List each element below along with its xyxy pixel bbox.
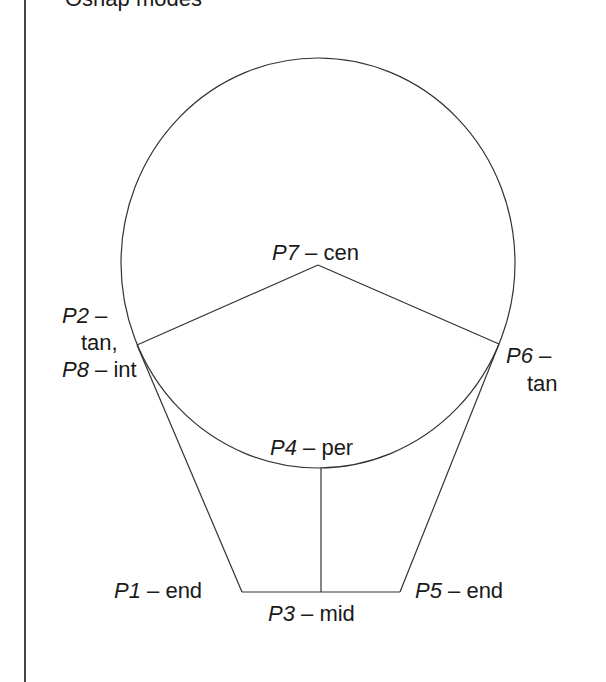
label-p7-sep: – xyxy=(299,240,323,265)
label-p6-sep: – xyxy=(533,343,551,368)
label-p3-mode: mid xyxy=(319,601,354,626)
label-p2: P2 – xyxy=(62,303,107,329)
label-p7-id: P7 xyxy=(272,240,299,265)
label-p4-mode: per xyxy=(321,435,353,460)
label-p2-mode: tan, xyxy=(81,330,118,356)
label-p8: P8 – int xyxy=(62,357,137,383)
label-p5: P5 – end xyxy=(415,578,503,604)
label-p2-id: P2 xyxy=(62,303,89,328)
label-p6-mode: tan xyxy=(527,371,558,397)
label-p1-sep: – xyxy=(141,578,165,603)
label-p8-sep: – xyxy=(89,357,113,382)
label-p3-id: P3 xyxy=(268,601,295,626)
label-p4-id: P4 xyxy=(270,435,297,460)
label-p3-sep: – xyxy=(295,601,319,626)
label-p2-sep: – xyxy=(89,303,107,328)
label-p6-id: P6 xyxy=(506,343,533,368)
label-p4: P4 – per xyxy=(270,435,353,461)
label-p8-mode: int xyxy=(113,357,136,382)
label-p3: P3 – mid xyxy=(268,601,355,627)
radius-line-left xyxy=(137,265,318,345)
label-p1-id: P1 xyxy=(114,578,141,603)
label-p1: P1 – end xyxy=(114,578,202,604)
label-p7: P7 – cen xyxy=(272,240,359,266)
tangent-line-left xyxy=(137,345,242,592)
label-p4-sep: – xyxy=(297,435,321,460)
label-p7-mode: cen xyxy=(323,240,358,265)
label-p5-mode: end xyxy=(466,578,503,603)
label-p8-id: P8 xyxy=(62,357,89,382)
label-p6: P6 – xyxy=(506,343,551,369)
radius-line-right xyxy=(318,265,499,344)
label-p5-sep: – xyxy=(442,578,466,603)
label-p1-mode: end xyxy=(165,578,202,603)
tangent-line-right xyxy=(400,344,499,592)
label-p5-id: P5 xyxy=(415,578,442,603)
